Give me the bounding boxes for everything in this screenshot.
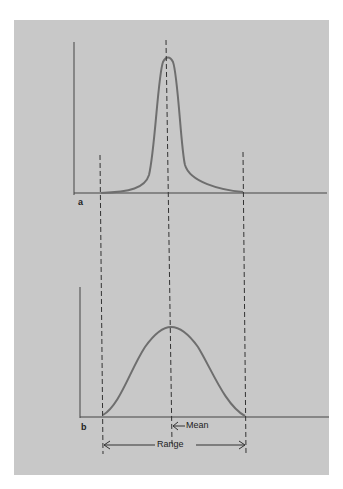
panel-a-curve — [101, 58, 243, 194]
panel-label-a: a — [78, 197, 83, 207]
mean-label: Mean — [186, 420, 209, 430]
distribution-diagram — [0, 0, 343, 489]
panel-label-b: b — [81, 422, 87, 432]
range-label: Range — [157, 439, 184, 449]
panel-a-axes — [74, 42, 327, 195]
mean-arrow — [173, 422, 185, 430]
panel-b-curve — [103, 327, 245, 416]
